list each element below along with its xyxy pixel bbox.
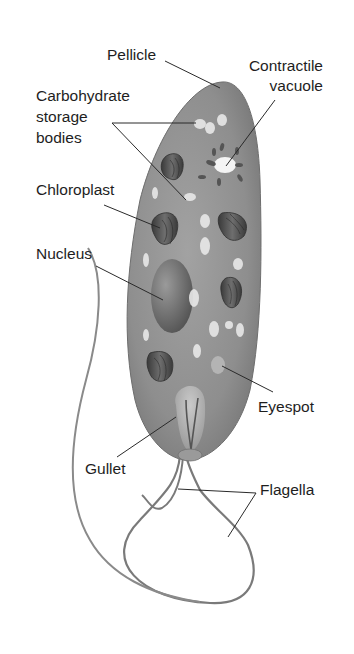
label-contractile-vacuole-line1: Contractile (237, 56, 323, 75)
label-chloroplast: Chloroplast (36, 180, 114, 199)
label-nucleus: Nucleus (36, 244, 92, 263)
label-carbohydrate-line1: Carbohydrate (36, 86, 130, 105)
eyespot (211, 356, 225, 374)
long-flagellum (124, 455, 254, 603)
label-carbohydrate-line2: storage (36, 107, 88, 126)
label-eyespot: Eyespot (258, 397, 314, 416)
label-contractile-vacuole-line2: vacuole (237, 76, 323, 95)
label-flagella: Flagella (260, 480, 314, 499)
label-gullet: Gullet (85, 459, 126, 478)
short-flagellum (142, 455, 183, 509)
label-carbohydrate-line3: bodies (36, 128, 82, 147)
euglena-diagram: Pellicle Contractile vacuole Carbohydrat… (0, 0, 354, 654)
nucleus (151, 259, 193, 333)
label-pellicle: Pellicle (107, 45, 156, 64)
